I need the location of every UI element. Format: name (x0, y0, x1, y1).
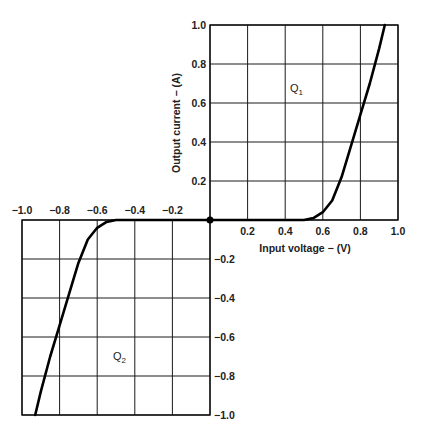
origin-dot (207, 217, 214, 224)
x-axis-label: Input voltage − (V) (259, 242, 350, 254)
y-axis-label: Output current − (A) (170, 73, 182, 173)
tick-label: 0.4 (278, 225, 293, 237)
tick-label: 0.8 (353, 225, 368, 237)
tick-label: 0.6 (315, 225, 330, 237)
tick-label: 0.2 (191, 175, 206, 187)
curve-q2 (35, 220, 210, 415)
tick-label: 0.8 (191, 58, 206, 70)
grid-quadrant-3 (22, 220, 210, 415)
tick-label: 1.0 (191, 19, 206, 31)
tick-label: −0.4 (214, 292, 235, 304)
grid-quadrant-1 (210, 25, 398, 220)
tick-label: −0.4 (124, 204, 145, 216)
tick-label: −0.8 (214, 370, 235, 382)
tick-label: −0.8 (49, 204, 70, 216)
tick-label: −0.2 (162, 204, 183, 216)
tick-label: 1.0 (391, 225, 406, 237)
q1-label: Q1 (290, 82, 304, 97)
tick-label: −0.6 (87, 204, 108, 216)
tick-label: −0.6 (214, 331, 235, 343)
tick-label: −1.0 (12, 204, 33, 216)
tick-label: −1.0 (214, 409, 235, 421)
q2-label: Q2 (113, 350, 127, 365)
tick-label: −0.2 (214, 253, 235, 265)
tick-label: 0.6 (191, 97, 206, 109)
tick-label: 0.4 (191, 136, 206, 148)
tick-label: 0.2 (240, 225, 255, 237)
curve-q1 (210, 25, 385, 220)
transfer-characteristic-chart: 0.20.40.60.81.0−1.0−0.8−0.6−0.4−0.21.00.… (0, 0, 421, 435)
